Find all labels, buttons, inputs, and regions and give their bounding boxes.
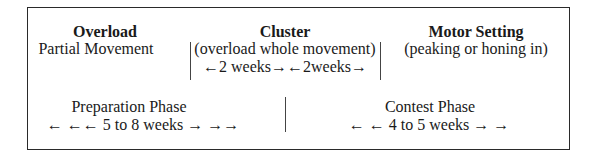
contest-phase-title: Contest Phase — [385, 98, 475, 116]
divider-top-right — [380, 42, 381, 80]
cluster-duration: ←2 weeks→←2weeks→ — [203, 58, 367, 76]
motor-setting-title: Motor Setting — [428, 23, 523, 41]
preparation-phase-title: Preparation Phase — [71, 98, 186, 116]
contest-phase-duration: ← ← 4 to 5 weeks → → — [349, 116, 509, 134]
divider-bottom — [285, 97, 286, 132]
overload-title: Overload — [73, 23, 137, 41]
preparation-phase-duration: ← ←← 5 to 8 weeks → →→ — [47, 116, 239, 134]
cluster-subtitle: (overload whole movement) — [194, 40, 375, 58]
divider-top-left — [190, 42, 191, 80]
motor-setting-subtitle: (peaking or honing in) — [404, 40, 548, 58]
cluster-title: Cluster — [260, 23, 311, 41]
overload-subtitle: Partial Movement — [38, 40, 153, 58]
